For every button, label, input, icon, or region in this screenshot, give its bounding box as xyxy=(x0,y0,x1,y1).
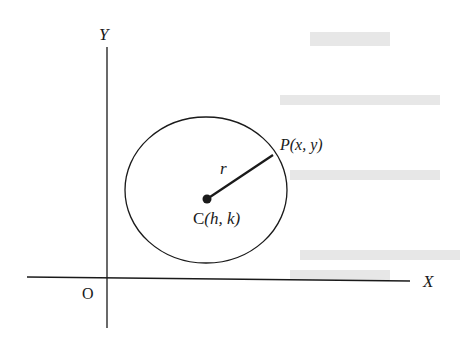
center-label: C(h, k) xyxy=(193,209,241,228)
diagram-canvas: Y X O r C(h, k) P(x, y) xyxy=(0,0,465,339)
y-axis-label: Y xyxy=(99,25,110,44)
radius-line xyxy=(207,155,273,199)
point-coords: (x, y) xyxy=(290,136,323,154)
show-through-text xyxy=(280,32,460,280)
radius-label: r xyxy=(220,159,227,178)
circle xyxy=(125,117,287,263)
x-axis-label: X xyxy=(422,272,434,291)
origin-label: O xyxy=(82,285,94,302)
circle-diagram: Y X O r C(h, k) P(x, y) xyxy=(0,0,465,339)
center-coords: (h, k) xyxy=(204,209,240,228)
center-point xyxy=(203,195,212,204)
center-prefix: C xyxy=(193,209,204,228)
point-prefix: P xyxy=(279,136,290,153)
point-label: P(x, y) xyxy=(279,136,323,154)
